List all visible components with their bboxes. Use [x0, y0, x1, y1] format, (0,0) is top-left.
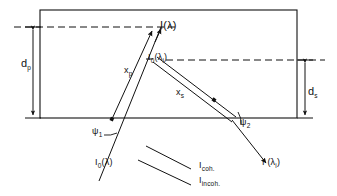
- angle-arc-psi1: [104, 133, 117, 135]
- label-ds: ds: [308, 86, 318, 100]
- label-psi1: ψ1: [92, 127, 102, 138]
- legend-label-incoherent: Iincoh.: [199, 176, 220, 187]
- label-xs: xs: [176, 88, 184, 99]
- label-i-lambda: I(λ): [160, 20, 177, 31]
- label-xp: xp: [124, 66, 133, 77]
- legend-line-incoherent-a: [138, 160, 191, 185]
- ray-path-xs-upper: [157, 57, 236, 117]
- legend-label-coherent: Icoh.: [199, 161, 215, 172]
- label-i0-lambda: I0(λ): [95, 158, 113, 169]
- label-dp: dp: [21, 58, 31, 72]
- label-i0-lambda-i: I0(λi): [148, 53, 167, 64]
- label-i-lambda-i: I (λi): [262, 158, 280, 169]
- ray-diagram-figure: dp ds I(λ) I0(λi) xp xs ψ1 ψ2 I0(λ) I (λ…: [0, 0, 337, 196]
- legend-line-coherent: [146, 146, 191, 169]
- ray-path-xs-lower: [153, 62, 232, 122]
- label-psi2: ψ2: [240, 118, 250, 129]
